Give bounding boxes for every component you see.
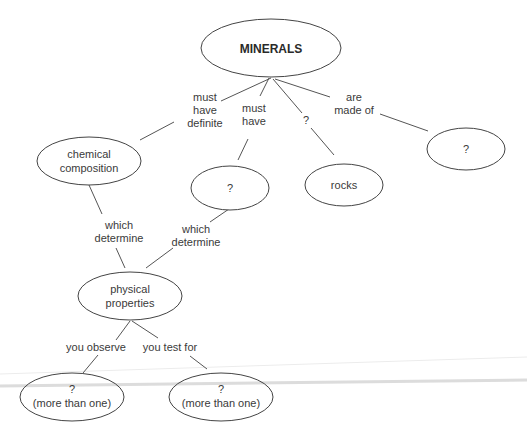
node-physical-properties-ellipse xyxy=(78,272,182,320)
link-are-made-of-line1: are xyxy=(346,91,362,103)
edge-chemical-to-which-determine xyxy=(89,185,102,214)
edge-which-determine-to-physical xyxy=(116,248,125,268)
node-tested-properties-label-line2: (more than one) xyxy=(182,397,260,409)
edge-physical-to-you-test-for xyxy=(132,321,158,338)
link-you-test-for: you test for xyxy=(143,341,198,353)
edge-are-made-of-to-unknown xyxy=(380,114,428,131)
link-must-have-definite: must have definite xyxy=(187,91,222,129)
link-must-have-definite-line1: must xyxy=(193,91,217,103)
link-you-observe-label: you observe xyxy=(66,341,126,353)
link-must-have: must have xyxy=(242,102,266,127)
node-observed-properties-label-line1: ? xyxy=(69,383,75,395)
node-physical-properties-label-line2: properties xyxy=(106,297,155,309)
node-rocks-label: rocks xyxy=(331,179,358,191)
link-must-have-definite-line3: definite xyxy=(187,117,222,129)
node-physical-properties-label-line1: physical xyxy=(110,283,150,295)
link-unknown: ? xyxy=(303,114,309,126)
link-are-made-of-line2: made of xyxy=(334,104,375,116)
edge-minerals-to-are-made-of xyxy=(275,79,330,97)
node-observed-properties-label-line2: (more than one) xyxy=(33,397,111,409)
edge-you-test-for-to-tested xyxy=(190,356,207,369)
node-minerals: MINERALS xyxy=(201,19,341,77)
edge-must-have-to-unknown xyxy=(238,139,248,160)
node-physical-properties: physical properties xyxy=(78,272,182,320)
concept-map-canvas: MINERALS chemical composition ? rocks ? … xyxy=(0,0,527,437)
node-chemical-composition-ellipse xyxy=(37,137,141,185)
edge-which-determine-right-to-physical xyxy=(146,248,173,268)
link-must-have-line2: have xyxy=(242,115,266,127)
link-which-determine-right: which determine xyxy=(172,223,221,248)
node-rocks: rocks xyxy=(305,164,383,206)
node-unknown-made-of: ? xyxy=(427,128,505,170)
link-must-have-definite-line2: have xyxy=(193,104,217,116)
link-which-determine-left-line2: determine xyxy=(95,232,144,244)
link-which-determine-left: which determine xyxy=(95,219,144,244)
link-must-have-line1: must xyxy=(242,102,266,114)
link-are-made-of: are made of xyxy=(334,91,375,116)
node-unknown-must-have: ? xyxy=(191,166,269,210)
edge-unknown-link-to-rocks xyxy=(311,128,334,155)
edge-you-observe-to-observed xyxy=(83,355,98,373)
node-chemical-composition-label-line2: composition xyxy=(60,162,119,174)
edge-minerals-to-unknown-link xyxy=(273,79,302,113)
edge-physical-to-you-observe xyxy=(116,321,130,340)
link-you-test-for-label: you test for xyxy=(143,341,198,353)
node-unknown-made-of-label: ? xyxy=(463,143,469,155)
link-which-determine-right-line1: which xyxy=(181,223,210,235)
link-which-determine-right-line2: determine xyxy=(172,236,221,248)
node-tested-properties-label-line1: ? xyxy=(218,383,224,395)
node-chemical-composition-label-line1: chemical xyxy=(67,148,110,160)
edge-must-have-definite-to-chemical xyxy=(140,122,174,140)
node-tested-properties: ? (more than one) xyxy=(169,373,273,421)
node-unknown-must-have-label: ? xyxy=(227,182,233,194)
edge-unknown-to-which-determine xyxy=(210,209,229,222)
node-observed-properties: ? (more than one) xyxy=(20,373,124,421)
link-which-determine-left-line1: which xyxy=(104,219,133,231)
link-you-observe: you observe xyxy=(66,341,126,353)
link-unknown-line1: ? xyxy=(303,114,309,126)
node-chemical-composition: chemical composition xyxy=(37,137,141,185)
node-minerals-label: MINERALS xyxy=(240,42,303,56)
scan-artifact-line-faint xyxy=(0,357,527,374)
